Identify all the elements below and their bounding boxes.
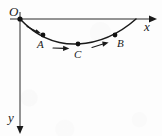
point-marker-c — [76, 42, 81, 47]
point-label-c: C — [74, 49, 81, 60]
direction-arrow-o-to-a — [27, 27, 41, 34]
direction-arrow-a-to-c — [53, 46, 69, 51]
point-marker-a — [41, 33, 46, 38]
trajectory-diagram-svg — [0, 0, 162, 136]
y-axis-arrowhead-icon — [17, 126, 24, 134]
x-axis-label: x — [144, 20, 150, 33]
point-label-a: A — [37, 39, 44, 50]
point-label-b: B — [117, 38, 124, 49]
origin-label: O — [9, 5, 18, 18]
figure-container: O x y A C B — [0, 0, 162, 136]
y-axis-label: y — [8, 111, 14, 124]
x-axis-arrowhead-icon — [149, 16, 157, 23]
